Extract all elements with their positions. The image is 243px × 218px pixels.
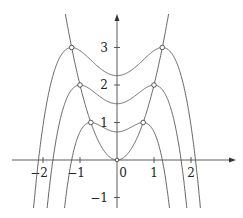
x-tick-label: 0: [119, 166, 127, 180]
x-axis-arrow-icon: [229, 158, 236, 163]
y-tick-label: 3: [100, 41, 108, 55]
x-tick-label: 2: [187, 166, 195, 180]
plot-area: −2−1012−1123: [0, 0, 243, 218]
y-axis-arrow-icon: [115, 14, 120, 21]
intersection-point: [78, 83, 83, 88]
y-tick-label: 2: [100, 78, 108, 92]
intersection-point: [89, 120, 94, 125]
origin-point: [115, 158, 119, 162]
intersection-point: [152, 83, 157, 88]
intersection-point: [160, 45, 165, 50]
y-tick-label: −1: [90, 191, 108, 205]
intersection-point: [141, 120, 146, 125]
intersection-point: [69, 45, 74, 50]
x-tick-label: 1: [150, 166, 158, 180]
function-plot: −2−1012−1123: [0, 0, 243, 218]
x-tick-label: −2: [30, 166, 48, 180]
